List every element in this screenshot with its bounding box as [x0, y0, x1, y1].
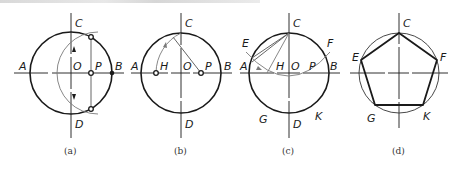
label-d: D — [75, 118, 83, 131]
arrow-icon — [72, 46, 76, 52]
label-e: E — [242, 37, 249, 50]
panel-c: A B C D O P H E F G K (c) — [239, 13, 340, 156]
label-c: C — [75, 17, 83, 30]
point-p — [89, 71, 94, 76]
label-p: P — [95, 60, 102, 73]
label-g: G — [259, 113, 268, 126]
point-h — [154, 71, 159, 76]
label-c: C — [403, 17, 411, 30]
label-e: E — [352, 51, 359, 64]
label-f: F — [440, 51, 447, 64]
label-g: G — [367, 112, 376, 125]
caption-b: (b) — [174, 146, 187, 156]
arrow-icon — [256, 66, 262, 70]
caption-c: (c) — [282, 146, 294, 156]
label-b: B — [115, 60, 123, 73]
caption-a: (a) — [64, 146, 76, 156]
panel-a: A B C D O P (a) — [14, 13, 124, 156]
arrow-icon — [72, 94, 76, 100]
label-d: D — [185, 118, 193, 131]
point-b — [110, 71, 115, 76]
label-a: A — [239, 60, 248, 73]
intersection-point — [89, 35, 94, 40]
label-k: K — [315, 110, 323, 123]
label-c: C — [185, 17, 193, 30]
panel-d: C E F G K (d) — [350, 13, 448, 156]
label-b: B — [330, 60, 338, 73]
label-d: D — [293, 118, 301, 131]
caption-d: (d) — [392, 146, 405, 156]
label-h: H — [160, 60, 168, 73]
label-h: H — [276, 60, 284, 73]
label-o: O — [183, 60, 192, 73]
label-k: K — [423, 110, 431, 123]
construction-arc — [246, 52, 330, 76]
label-p: P — [205, 60, 212, 73]
intersection-point — [89, 107, 94, 112]
label-p: P — [309, 60, 316, 73]
label-b: B — [224, 60, 232, 73]
point-p — [199, 71, 204, 76]
panel-b: A B C D O P H (b) — [130, 13, 232, 156]
label-o: O — [291, 60, 300, 73]
label-a: A — [130, 60, 139, 73]
arrow-icon — [163, 42, 167, 48]
label-a: A — [18, 60, 27, 73]
label-f: F — [327, 37, 334, 50]
label-c: C — [293, 17, 301, 30]
label-o: O — [73, 60, 82, 73]
pentagon-construction-figure: A B C D O P (a) A B C D O P H (b) — [0, 0, 462, 171]
